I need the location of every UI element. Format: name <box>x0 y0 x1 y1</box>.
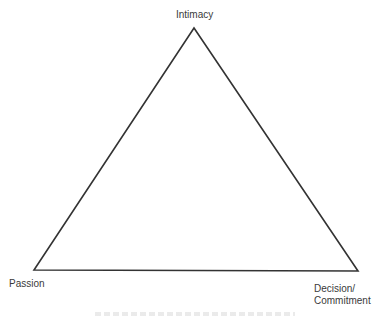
triangle-shape <box>34 28 358 271</box>
vertex-label-passion: Passion <box>9 278 45 290</box>
vertex-label-line1: Decision/ <box>314 283 371 295</box>
cut-off-caption <box>95 312 295 316</box>
vertex-label-decision-commitment: Decision/ Commitment <box>314 283 371 307</box>
vertex-label-intimacy: Intimacy <box>176 9 213 21</box>
vertex-label-line2: Commitment <box>314 295 371 307</box>
triangle-diagram <box>0 0 382 316</box>
